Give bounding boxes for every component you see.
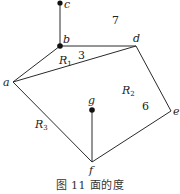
figure-caption: 图 11 面的度 (0, 176, 180, 192)
vertex-label-e: e (173, 105, 180, 118)
edge-a-f (13, 82, 92, 162)
edge-a-d (13, 46, 136, 82)
vertex-label-g: g (88, 94, 95, 107)
region-label-r3: R3 (34, 118, 48, 132)
degree-r2: 6 (142, 100, 149, 113)
degree-r1: 3 (78, 49, 85, 62)
vertex-label-c: c (64, 0, 70, 11)
edge-e-f (92, 111, 171, 162)
edges (13, 3, 171, 162)
vertex-g-dot (89, 107, 95, 113)
degree-r3: 7 (112, 14, 119, 27)
vertex-label-b: b (63, 33, 70, 46)
vertex-label-a: a (3, 76, 10, 89)
planar-graph-diagram: c b d a e f g R1 R2 R3 3 6 7 (0, 0, 180, 194)
region-labels: R1 R2 R3 (34, 54, 135, 132)
region-label-r1: R1 (58, 54, 72, 68)
vertex-c-dot (57, 0, 62, 5)
region-label-r2: R2 (121, 84, 135, 98)
vertex-label-d: d (133, 32, 140, 45)
edge-b-a (13, 46, 60, 82)
vertex-b-dot (57, 43, 63, 49)
